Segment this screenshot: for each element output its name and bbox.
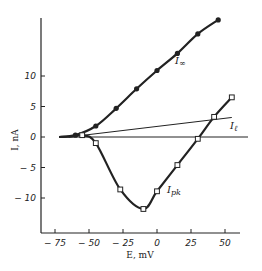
data-point-filled [93, 123, 98, 128]
x-tick-label: − 50 [78, 238, 100, 248]
data-point-open [118, 187, 123, 192]
x-tick-label: 0 [154, 238, 160, 248]
x-axis-label: E, mV [126, 250, 154, 260]
y-tick-label: 5 [30, 102, 36, 112]
series-layer [59, 17, 234, 211]
data-point-open [155, 189, 160, 194]
data-point-open [212, 114, 217, 119]
data-point-open [195, 136, 200, 141]
series-line [59, 97, 232, 209]
data-point-filled [114, 106, 119, 111]
y-tick-label: 10 [25, 71, 37, 81]
y-tick-label: − 5 [20, 163, 36, 173]
y-axis-label: I, nA [10, 129, 20, 151]
series-line [59, 20, 218, 137]
x-tick-label: − 25 [112, 238, 134, 248]
data-point-filled [134, 86, 139, 91]
y-tick-label: − 10 [14, 193, 36, 203]
chart-canvas: − 75− 50− 2502550− 10− 50510 I∞ Iℓ Ipk E… [0, 0, 262, 271]
label-i-inf: I∞ [174, 55, 186, 68]
data-point-open [175, 163, 180, 168]
data-point-filled [154, 68, 159, 73]
axes: − 75− 50− 2502550− 10− 50510 [14, 18, 248, 248]
x-tick-label: 25 [185, 238, 197, 248]
y-tick-label: 0 [30, 132, 36, 142]
data-point-open [229, 95, 234, 100]
x-tick-label: 50 [219, 238, 231, 248]
data-point-open [141, 207, 146, 212]
data-point-open [93, 141, 98, 146]
data-point-filled [195, 31, 200, 36]
iv-chart: − 75− 50− 2502550− 10− 50510 I∞ Iℓ Ipk E… [0, 0, 262, 271]
label-i-l: Iℓ [229, 120, 238, 133]
x-tick-label: − 75 [44, 238, 66, 248]
data-point-open [80, 133, 85, 138]
data-point-filled [216, 17, 221, 22]
label-i-pk: Ipk [166, 184, 181, 197]
